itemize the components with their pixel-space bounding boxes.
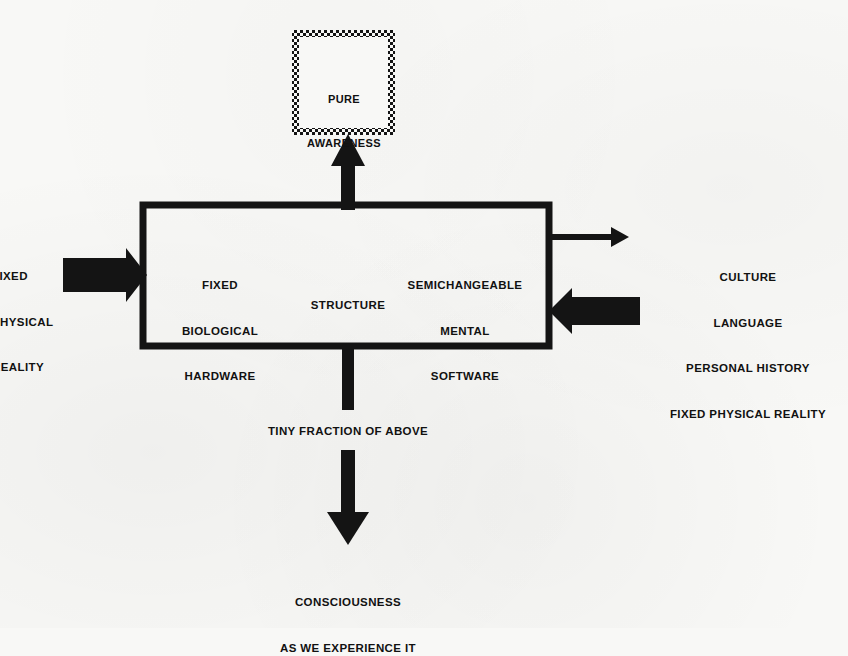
right-input-line2: LANGUAGE bbox=[670, 316, 826, 331]
right-input-line1: CULTURE bbox=[670, 270, 826, 285]
pure-awareness-line2: AWARENESS bbox=[307, 136, 381, 151]
sms-line3: SOFTWARE bbox=[408, 369, 523, 384]
sms-line1: SEMICHANGEABLE bbox=[408, 278, 523, 293]
structure-line1: STRUCTURE bbox=[311, 298, 386, 313]
fbh-line2: BIOLOGICAL bbox=[182, 324, 258, 339]
right-input-label: CULTURE LANGUAGE PERSONAL HISTORY FIXED … bbox=[670, 240, 826, 452]
right-input-line4: FIXED PHYSICAL REALITY bbox=[670, 407, 826, 422]
left-input-line3: REALITY bbox=[0, 360, 53, 375]
compartment-structure: STRUCTURE bbox=[311, 268, 386, 344]
sms-line2: MENTAL bbox=[408, 324, 523, 339]
pure-awareness-label: PURE AWARENESS bbox=[307, 63, 381, 179]
arrow-down-to-consciousness bbox=[327, 450, 369, 545]
consciousness-line1: CONSCIOUSNESS bbox=[280, 595, 416, 610]
arrow-out-to-right bbox=[549, 227, 629, 247]
left-input-line2: PHYSICAL bbox=[0, 315, 53, 330]
compartment-semichangeable-mental-software: SEMICHANGEABLE MENTAL SOFTWARE bbox=[408, 248, 523, 415]
consciousness-line2: AS WE EXPERIENCE IT bbox=[280, 641, 416, 656]
left-input-line1: FIXED bbox=[0, 269, 53, 284]
consciousness-label: CONSCIOUSNESS AS WE EXPERIENCE IT bbox=[280, 565, 416, 656]
tiny-fraction-label: TINY FRACTION OF ABOVE bbox=[268, 424, 428, 439]
arrow-down-stub bbox=[342, 346, 354, 410]
right-input-line3: PERSONAL HISTORY bbox=[670, 361, 826, 376]
pure-awareness-line1: PURE bbox=[307, 92, 381, 107]
fbh-line3: HARDWARE bbox=[182, 369, 258, 384]
compartment-fixed-biological-hardware: FIXED BIOLOGICAL HARDWARE bbox=[182, 248, 258, 415]
fbh-line1: FIXED bbox=[182, 278, 258, 293]
arrow-in-from-right bbox=[549, 288, 640, 334]
left-input-label: FIXED PHYSICAL REALITY bbox=[0, 239, 53, 406]
arrow-in-from-left bbox=[63, 248, 147, 302]
